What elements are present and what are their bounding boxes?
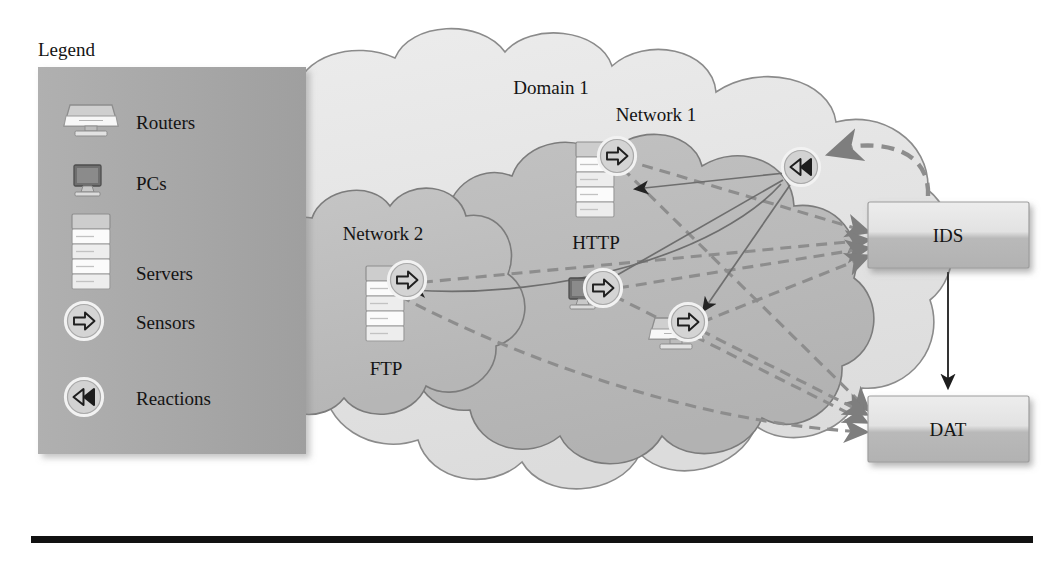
box-label-dat: DAT	[930, 419, 967, 440]
server-icon	[72, 214, 110, 289]
sensor-icon	[66, 303, 103, 340]
legend-label-reactions: Reactions	[136, 388, 211, 409]
cloud-label-network1: Network 1	[616, 104, 697, 125]
reaction-icon	[66, 379, 103, 416]
box-label-ids: IDS	[933, 225, 964, 246]
sensor-icon[interactable]	[599, 138, 636, 175]
node-label-ftp: FTP	[370, 358, 403, 379]
sensor-icon[interactable]	[670, 304, 707, 341]
node-label-http: HTTP	[572, 232, 620, 253]
legend-title: Legend	[38, 39, 95, 60]
cloud-label-domain1: Domain 1	[513, 77, 588, 98]
node-reaction1[interactable]	[783, 149, 820, 186]
sensor-icon[interactable]	[585, 270, 622, 307]
legend-label-pcs: PCs	[136, 173, 167, 194]
diagram-canvas: Domain 1 Network 1 Network 2	[0, 0, 1063, 565]
cloud-label-network2: Network 2	[343, 223, 424, 244]
reaction-icon[interactable]	[783, 149, 820, 186]
network-diagram-figure: Domain 1 Network 1 Network 2	[0, 0, 1063, 565]
legend-label-sensors: Sensors	[136, 312, 195, 333]
bottom-rule	[31, 536, 1033, 543]
legend-label-servers: Servers	[136, 263, 193, 284]
legend-label-routers: Routers	[136, 112, 195, 133]
sensor-icon[interactable]	[389, 262, 426, 299]
